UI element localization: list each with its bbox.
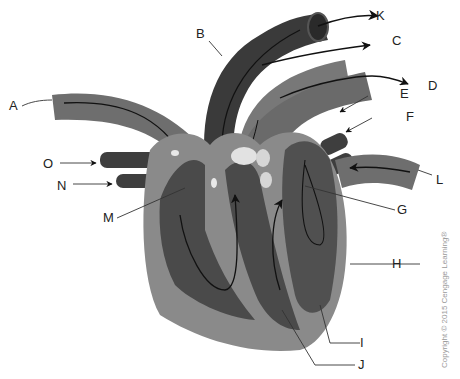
- label-H: H: [392, 256, 401, 271]
- copyright-notice: Copyright © 2015 Cengage Learning®: [440, 232, 449, 368]
- heart-body: [143, 132, 346, 351]
- label-A: A: [9, 98, 18, 113]
- label-D: D: [428, 78, 437, 93]
- heart-diagram: A B C D E F G H I J K L M N O: [0, 0, 460, 379]
- label-L: L: [436, 172, 443, 187]
- label-F: F: [406, 109, 414, 124]
- label-C: C: [392, 33, 401, 48]
- label-E: E: [400, 86, 409, 101]
- label-I: I: [360, 335, 364, 350]
- label-G: G: [397, 202, 407, 217]
- label-N: N: [57, 178, 66, 193]
- label-K: K: [376, 8, 385, 23]
- inferior-vessel-L: [335, 155, 420, 190]
- label-M: M: [103, 210, 114, 225]
- label-O: O: [43, 156, 53, 171]
- label-J: J: [358, 357, 365, 372]
- label-B: B: [196, 26, 205, 41]
